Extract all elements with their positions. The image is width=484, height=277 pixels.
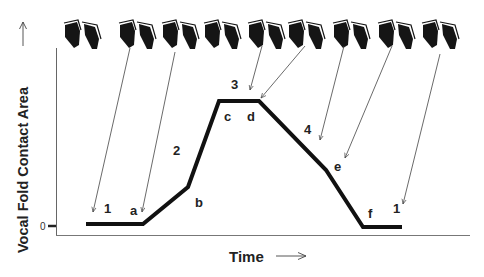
vocal-fold-contact-diagram: 0 Vocal Fold Contact Area Time 1 2 3 4 1… <box>0 0 484 277</box>
arrow-to-phase-1-end <box>403 54 440 204</box>
pointer-arrows <box>93 46 440 212</box>
vocal-fold-image-9 <box>422 20 459 49</box>
vocal-fold-image-7 <box>333 20 370 49</box>
arrow-to-phase-1 <box>93 48 130 212</box>
point-label-c: c <box>224 109 231 124</box>
phase-label-4: 4 <box>304 122 312 137</box>
point-label-b: b <box>195 195 203 210</box>
phase-labels: 1 2 3 4 1 <box>104 77 400 216</box>
point-label-f: f <box>368 206 373 221</box>
vocal-fold-image-1 <box>64 20 101 49</box>
vocal-fold-image-6 <box>288 20 325 49</box>
arrow-to-phase-3 <box>250 46 262 90</box>
arrow-to-point-d <box>261 46 305 98</box>
vocal-fold-image-4 <box>204 20 241 49</box>
phase-label-3: 3 <box>231 77 238 92</box>
arrow-to-point-a <box>142 52 175 212</box>
x-axis-label: Time <box>229 248 264 265</box>
x-axis-label-group: Time <box>229 248 306 265</box>
phase-label-1: 1 <box>104 201 111 216</box>
y-axis-label: Vocal Fold Contact Area <box>15 86 31 253</box>
vocal-fold-image-3 <box>162 20 199 49</box>
y-tick-zero-label: 0 <box>40 221 46 232</box>
point-label-e: e <box>334 159 341 174</box>
phase-label-2: 2 <box>173 143 180 158</box>
phase-label-1-end: 1 <box>393 201 400 216</box>
arrow-to-phase-4 <box>320 46 344 140</box>
arrow-to-point-e <box>345 46 392 158</box>
point-label-a: a <box>130 203 138 218</box>
vocal-fold-image-5 <box>248 20 285 49</box>
point-label-d: d <box>247 109 255 124</box>
vocal-fold-image-8 <box>378 20 415 49</box>
vocal-fold-image-2 <box>119 20 156 49</box>
vocal-fold-images <box>64 20 459 49</box>
y-axis-label-group: Vocal Fold Contact Area <box>15 22 31 253</box>
